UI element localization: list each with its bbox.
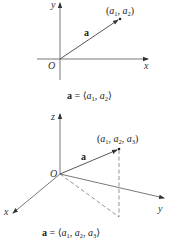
origin-label: O — [50, 168, 57, 179]
caption-2d: a = ⟨a1, a2⟩ — [67, 90, 112, 102]
origin-label: O — [48, 60, 55, 71]
point-label: (a1, a2, a3) — [97, 133, 138, 145]
y-axis — [60, 174, 164, 198]
vector-a — [60, 150, 117, 174]
point-dot — [118, 148, 121, 151]
figure-2d: y x O a (a1, a2) a = ⟨a1, a2⟩ — [37, 0, 149, 102]
vector-label: a — [84, 27, 89, 38]
vector-a — [60, 20, 118, 59]
x-axis — [13, 174, 60, 213]
point-label: (a1, a2) — [106, 5, 134, 17]
y-axis-label: y — [157, 203, 163, 214]
vector-diagrams: y x O a (a1, a2) a = ⟨a1, a2⟩ z y x O a … — [0, 0, 170, 243]
z-axis-label: z — [50, 111, 55, 122]
y-axis-label: y — [50, 0, 56, 10]
x-axis-label: x — [143, 60, 149, 71]
caption-3d: a = ⟨a1, a2, a3⟩ — [42, 227, 100, 239]
figure-3d: z y x O a (a1, a2, a3) a = ⟨a1, a2, a3⟩ — [3, 111, 164, 239]
vector-label: a — [81, 151, 86, 162]
point-dot — [119, 18, 122, 21]
x-axis-label: x — [3, 206, 9, 217]
